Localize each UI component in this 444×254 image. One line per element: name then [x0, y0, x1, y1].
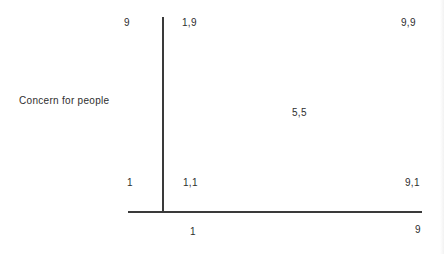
x-tick-right: 9 — [415, 224, 421, 236]
point-label-9-9: 9,9 — [401, 17, 416, 29]
y-axis-label: Concern for people — [19, 95, 109, 107]
vertical-axis — [162, 17, 164, 213]
x-tick-left: 1 — [190, 226, 196, 238]
point-label-9-1: 9,1 — [405, 177, 420, 189]
point-label-1-1: 1,1 — [183, 177, 198, 189]
point-label-1-9: 1,9 — [182, 17, 197, 29]
y-tick-top: 9 — [124, 17, 130, 29]
y-tick-bottom: 1 — [127, 177, 133, 189]
point-label-5-5: 5,5 — [292, 107, 307, 119]
horizontal-axis — [128, 211, 422, 213]
page-edge-shadow — [440, 0, 444, 254]
